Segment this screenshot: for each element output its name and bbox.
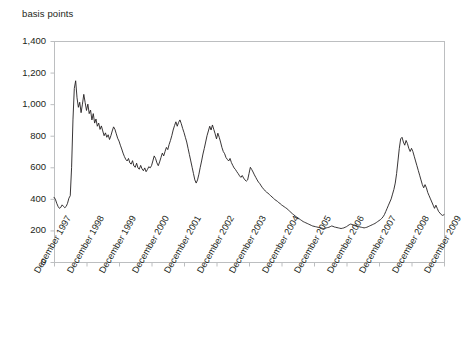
y-axis-ticks <box>51 42 55 263</box>
data-series-line <box>54 81 444 229</box>
x-axis-ticks <box>55 263 445 267</box>
plot-area <box>0 0 466 361</box>
chart-container: basis points 02004006008001,0001,2001,40… <box>0 0 466 361</box>
